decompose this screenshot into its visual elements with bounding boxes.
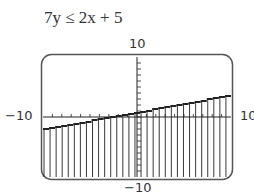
calculator-screen	[0, 0, 254, 196]
plot-area	[43, 57, 231, 177]
